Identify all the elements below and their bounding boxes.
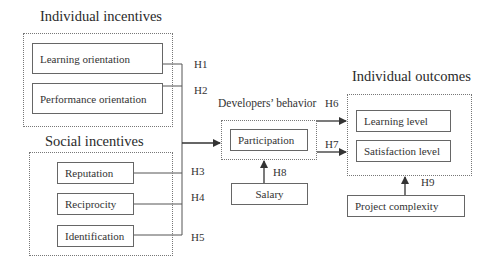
research-model-diagram: Individual incentives Learning orientati… [0, 0, 494, 266]
label-h4: H4 [191, 191, 204, 203]
node-learning-level: Learning level [356, 110, 451, 132]
label-h8: H8 [273, 166, 286, 178]
label-h5: H5 [191, 231, 204, 243]
node-project-complexity: Project complexity [347, 195, 465, 217]
developers-behavior-title: Developers’ behavior [218, 97, 316, 109]
label-h1: H1 [194, 58, 207, 70]
individual-incentives-title: Individual incentives [40, 8, 162, 25]
node-satisfaction-level: Satisfaction level [356, 140, 451, 162]
node-salary: Salary [231, 183, 308, 205]
node-learning-orientation: Learning orientation [32, 43, 163, 74]
individual-outcomes-title: Individual outcomes [352, 68, 471, 85]
social-incentives-title: Social incentives [45, 133, 144, 150]
node-identification: Identification [57, 225, 134, 247]
label-h9: H9 [421, 176, 434, 188]
individual-outcomes-group [347, 94, 472, 176]
node-participation: Participation [230, 129, 308, 151]
label-h6: H6 [325, 97, 338, 109]
label-h3: H3 [191, 165, 204, 177]
node-reputation: Reputation [57, 162, 134, 184]
node-performance-orientation: Performance orientation [32, 83, 163, 114]
node-reciprocity: Reciprocity [57, 193, 134, 215]
label-h7: H7 [325, 138, 338, 150]
label-h2: H2 [194, 84, 207, 96]
